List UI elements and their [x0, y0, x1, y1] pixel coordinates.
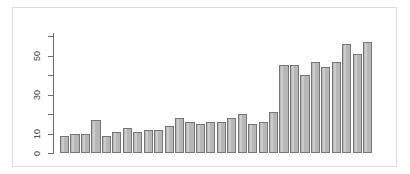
y-axis-line [53, 33, 54, 154]
bar [290, 65, 299, 153]
bar [185, 122, 194, 153]
bar [321, 67, 330, 153]
bar [248, 124, 257, 153]
y-axis-tick-label: 0 [33, 146, 42, 160]
bar [175, 118, 184, 153]
y-axis-tick [48, 153, 53, 154]
y-axis-tick [48, 56, 53, 57]
y-axis-tick [48, 114, 53, 115]
bar [206, 122, 215, 153]
bar [196, 124, 205, 153]
bar [112, 132, 121, 153]
bar [269, 112, 278, 153]
bar [133, 132, 142, 153]
bar [311, 62, 320, 153]
bar [259, 122, 268, 153]
bar [332, 62, 341, 153]
y-axis-tick [48, 36, 53, 37]
y-axis-tick-label: 30 [33, 88, 42, 102]
y-axis-tick [48, 134, 53, 135]
y-axis-tick-label: 10 [33, 127, 42, 141]
bar [123, 128, 132, 153]
plot-area: 0103050 [0, 0, 410, 174]
y-axis-tick-label: 50 [33, 49, 42, 63]
y-axis-tick [48, 95, 53, 96]
bar [300, 75, 309, 153]
bar [91, 120, 100, 153]
bar [81, 134, 90, 153]
bar-series [60, 0, 375, 174]
bar [102, 136, 111, 154]
bar [353, 54, 362, 153]
bar [279, 65, 288, 153]
y-axis-tick [48, 75, 53, 76]
bar [363, 42, 372, 153]
bar [60, 136, 69, 154]
bar [217, 122, 226, 153]
bar [154, 130, 163, 153]
bar [165, 126, 174, 153]
bar [227, 118, 236, 153]
bar [238, 114, 247, 153]
bar [144, 130, 153, 153]
figure-container: 0103050 [0, 0, 410, 174]
bar [70, 134, 79, 153]
bar [342, 44, 351, 153]
